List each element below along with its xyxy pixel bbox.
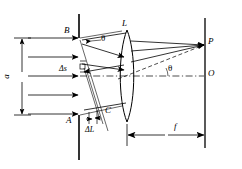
focal-length-dimension bbox=[127, 124, 204, 146]
angle-theta-axis-label: θ bbox=[168, 64, 172, 73]
angle-theta-slit-label: θ bbox=[101, 34, 105, 43]
theta-leader-slit bbox=[91, 40, 101, 41]
plane-wave-arrows bbox=[28, 38, 78, 114]
diffracted-ray-back bbox=[84, 65, 124, 72]
slit-element-label: Δs bbox=[59, 65, 67, 73]
chief-ray-to-focus bbox=[118, 45, 204, 79]
diffraction-figure-root: a B A C L P O f Δs ΔL θ θ bbox=[0, 0, 242, 169]
converging-ray bbox=[131, 41, 204, 45]
slit-top-label: B bbox=[64, 26, 70, 35]
slit-width-label: a bbox=[2, 74, 11, 79]
converging-ray bbox=[131, 45, 204, 51]
path-difference-label: ΔL bbox=[85, 126, 94, 134]
chief-ray-line bbox=[118, 45, 204, 79]
converging-rays-to-focus bbox=[131, 41, 204, 62]
optics-diagram-svg bbox=[0, 0, 242, 169]
diffracted-ray-bundle bbox=[82, 33, 126, 110]
wavefront-line-C bbox=[87, 72, 103, 124]
axis-point-label: O bbox=[208, 69, 215, 78]
diffracted-ray bbox=[82, 44, 124, 57]
focal-length-label: f bbox=[174, 122, 177, 131]
angle-theta-at-slit bbox=[91, 40, 101, 41]
slit-width-dimension bbox=[14, 38, 31, 115]
wavefront-point-label: C bbox=[105, 106, 111, 115]
wavefront-line-B bbox=[80, 40, 108, 131]
slit-element-marks bbox=[80, 61, 86, 72]
lens-label: L bbox=[122, 19, 127, 28]
slit-bottom-label: A bbox=[66, 116, 72, 125]
focus-point-label: P bbox=[208, 37, 214, 46]
tilted-wavefront-lines bbox=[80, 31, 122, 131]
